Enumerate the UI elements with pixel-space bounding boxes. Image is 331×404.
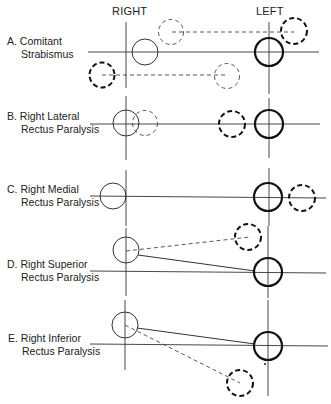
header-right: RIGHT <box>112 5 147 17</box>
panel-d: D. Right Superior Rectus Paralysis <box>7 224 326 298</box>
panel-e-label-line2: Rectus Paralysis <box>22 345 100 357</box>
panel-b-label-line2: Rectus Paralysis <box>21 123 99 135</box>
panel-a-label-line2: Strabismus <box>21 48 74 60</box>
panel-e-solid-connector <box>137 328 255 344</box>
panel-e-dot-marker <box>264 363 266 365</box>
panel-e: E. Right Inferior Rectus Paralysis <box>8 300 328 396</box>
panel-d-label-line1: D. Right Superior <box>7 258 88 270</box>
panel-a-label-line1: A. Comitant <box>7 35 62 47</box>
panel-a: A. Comitant Strabismus <box>7 18 319 94</box>
panel-e-label-line1: E. Right Inferior <box>8 332 81 344</box>
panel-e-horizontal-axis <box>90 344 328 346</box>
panel-d-dashed-connector <box>126 237 250 251</box>
panel-d-solid-connector <box>138 255 255 271</box>
strabismus-diagram: RIGHT LEFT A. Comitant Strabismus B. Rig… <box>0 0 331 404</box>
panel-c-label-line1: C. Right Medial <box>7 183 79 195</box>
panel-a-lower-dashed-circle <box>215 64 240 89</box>
panel-c-label-line2: Rectus Paralysis <box>21 196 99 208</box>
panel-b-label-line1: B. Right Lateral <box>7 110 79 122</box>
header-left: LEFT <box>256 5 284 17</box>
panel-c: C. Right Medial Rectus Paralysis <box>7 168 326 226</box>
panel-d-horizontal-axis <box>90 271 326 273</box>
panel-d-label-line2: Rectus Paralysis <box>21 271 99 283</box>
panel-a-upper-right-dashed-circle <box>281 18 307 44</box>
panel-b: B. Right Lateral Rectus Paralysis <box>7 96 320 160</box>
